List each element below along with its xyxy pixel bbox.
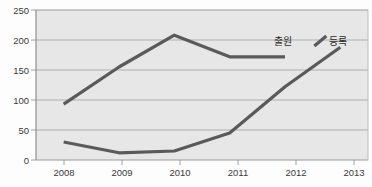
series-label-application: 출원 (274, 36, 292, 47)
x-tick-label-2009: 2009 (111, 167, 132, 178)
y-tick-label-50: 50 (18, 125, 29, 136)
y-tick-label-200: 200 (13, 35, 29, 46)
y-axis-labels: 250 200 150 100 50 0 (13, 5, 29, 166)
x-axis-labels: 2008 2009 2010 2011 2012 2013 (53, 167, 364, 178)
plot-area-background (36, 10, 368, 160)
y-tick-label-250: 250 (13, 5, 29, 16)
x-tick-label-2011: 2011 (228, 167, 248, 178)
y-axis-ticks (31, 10, 36, 160)
x-tick-label-2013: 2013 (343, 167, 364, 178)
x-tick-label-2008: 2008 (53, 167, 74, 178)
chart-screenshot: 250 200 150 100 50 0 2008 2009 2010 2011… (0, 0, 372, 187)
x-axis-ticks (64, 160, 354, 165)
y-tick-label-150: 150 (13, 65, 29, 76)
series-label-registration: 등록 (329, 36, 347, 47)
x-tick-label-2010: 2010 (169, 167, 190, 178)
y-tick-label-0: 0 (24, 155, 29, 166)
y-tick-label-100: 100 (13, 95, 29, 106)
x-tick-label-2012: 2012 (285, 167, 306, 178)
line-chart: 250 200 150 100 50 0 2008 2009 2010 2011… (0, 0, 372, 187)
